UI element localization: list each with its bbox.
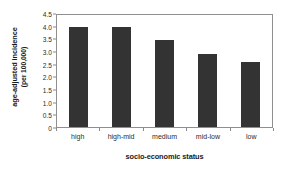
x-tick-label: mid-low	[186, 133, 229, 140]
y-tick-label: 2.0	[43, 74, 52, 81]
bar-slot	[100, 15, 143, 127]
x-tick-mark	[99, 128, 100, 131]
x-tick-label: high	[56, 133, 99, 140]
y-axis-title-text: age-adjusted incidence (per 100,000)	[10, 27, 28, 107]
y-axis-title-line1: age-adjusted incidence	[10, 27, 19, 107]
bar	[69, 27, 88, 127]
bar	[241, 62, 260, 127]
bar-slot	[229, 15, 272, 127]
x-tick-mark	[143, 128, 144, 131]
x-tick-mark	[186, 128, 187, 131]
bar-slot	[143, 15, 186, 127]
y-axis-title-line2: (per 100,000)	[19, 27, 28, 107]
bar-slot	[57, 15, 100, 127]
y-tick-label: 2.5	[43, 61, 52, 68]
bar	[198, 54, 217, 127]
x-tick-label: medium	[143, 133, 186, 140]
y-tick-label: 1.0	[43, 99, 52, 106]
x-tick-mark	[273, 128, 274, 131]
y-tick-label: 3.0	[43, 49, 52, 56]
x-tick-label: high-mid	[99, 133, 142, 140]
y-tick-label: 3.5	[43, 36, 52, 43]
y-tick-label: 0	[48, 125, 52, 132]
x-axis-title: socio-economic status	[56, 152, 273, 161]
x-tick-label: low	[230, 133, 273, 140]
y-tick-label: 1.5	[43, 87, 52, 94]
plot-area	[56, 14, 273, 128]
bar-slot	[186, 15, 229, 127]
x-tick-mark	[56, 128, 57, 131]
bar	[112, 27, 131, 127]
y-axis-tick-labels: 00.51.01.52.02.53.03.54.04.5	[30, 14, 56, 128]
x-axis-tick-marks	[56, 128, 273, 132]
y-tick-label: 4.0	[43, 23, 52, 30]
x-tick-mark	[230, 128, 231, 131]
bar-chart-figure: age-adjusted incidence (per 100,000) 00.…	[0, 0, 289, 180]
y-tick-label: 4.5	[43, 11, 52, 18]
y-axis-title: age-adjusted incidence (per 100,000)	[6, 0, 32, 134]
bar	[155, 40, 174, 127]
bar-series	[57, 15, 272, 127]
x-axis-tick-labels: highhigh-midmediummid-lowlow	[56, 133, 273, 140]
y-tick-label: 0.5	[43, 112, 52, 119]
